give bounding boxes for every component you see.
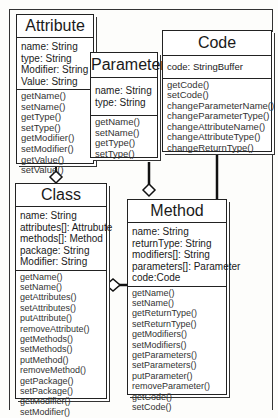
- attribute-list: name: String attributes[]: Attrubute met…: [16, 207, 106, 271]
- class-name: Code: [163, 31, 271, 56]
- aggregation-diamond-icon: [143, 184, 155, 196]
- class-box-code: Code code: StringBuffer getCode() setCod…: [162, 30, 272, 152]
- class-name: Parameter: [91, 53, 157, 78]
- class-box-attribute: Attribute name: String type: String Modi…: [16, 14, 94, 164]
- operation-list: getName() setName() getAttributes() setA…: [16, 271, 106, 418]
- class-name: Attribute: [17, 15, 93, 38]
- attribute-list: name: String type: String: [91, 78, 157, 116]
- attribute-list: code: StringBuffer: [163, 56, 271, 79]
- attribute-list: name: String type: String Modifier: Stri…: [17, 38, 93, 90]
- class-box-method: Method name: String returnType: String m…: [127, 199, 227, 395]
- class-name: Method: [128, 200, 226, 223]
- operation-list: getName() setName() getType() setType(): [91, 116, 157, 160]
- operation-list: getCode() setCode() changeParameterName(…: [163, 79, 271, 155]
- aggregation-diamond-icon: [106, 279, 120, 291]
- class-box-class: Class name: String attributes[]: Attrubu…: [15, 183, 107, 399]
- attribute-list: name: String returnType: String modifier…: [128, 223, 226, 287]
- operation-list: getName() setName() getReturnType() setR…: [128, 287, 226, 414]
- class-name: Class: [16, 184, 106, 207]
- operation-list: getName() setName() getType() setType() …: [17, 90, 93, 177]
- class-box-parameter: Parameter name: String type: String getN…: [90, 52, 158, 158]
